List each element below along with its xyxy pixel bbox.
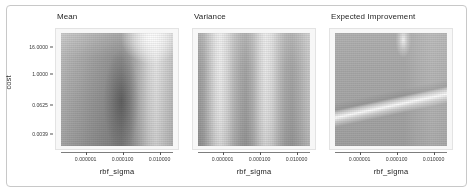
x-axis-tick-mark <box>360 152 361 155</box>
x-axis-tick-mark <box>260 152 261 155</box>
x-axis-tick-mark <box>160 152 161 155</box>
y-axis-tick-label: 0.0625 <box>32 102 48 108</box>
x-axis-tick-mark <box>297 152 298 155</box>
x-axis-tick-label: 0.000001 <box>349 156 371 162</box>
x-axis-variance: 0.0000010.0001000.010000 <box>198 152 310 166</box>
y-axis-tick-label: 1.0000 <box>32 71 48 77</box>
y-axis-tick-mark <box>50 46 53 47</box>
x-axis-tick-mark <box>86 152 87 155</box>
facet-heatmap-figure: cost 16.00001.00000.06250.0039 Mean 0.00… <box>0 0 473 196</box>
x-axis-tick-label: 0.000100 <box>249 156 271 162</box>
y-axis-tick-label: 16.0000 <box>29 44 48 50</box>
panel-title: Expected Improvement <box>331 12 415 21</box>
x-axis-title: rbf_sigma <box>55 167 179 176</box>
x-axis-tick-label: 0.010000 <box>149 156 171 162</box>
panel-title: Variance <box>194 12 226 21</box>
x-axis-tick-mark <box>123 152 124 155</box>
y-axis-tick-label: 0.0039 <box>32 131 48 137</box>
x-axis-title: rbf_sigma <box>192 167 316 176</box>
x-axis-expected-improvement: 0.0000010.0001000.010000 <box>335 152 447 166</box>
panel-expected-improvement: Expected Improvement 0.0000010.0001000.0… <box>329 12 455 184</box>
heatmap-raster-variance <box>198 33 310 146</box>
raster-grain <box>198 33 310 146</box>
x-axis-line <box>335 152 447 153</box>
heatmap-raster-expected-improvement <box>335 33 447 146</box>
x-axis-tick-mark <box>223 152 224 155</box>
x-axis-tick-label: 0.010000 <box>423 156 445 162</box>
panel-title: Mean <box>57 12 77 21</box>
x-axis-mean: 0.0000010.0001000.010000 <box>61 152 173 166</box>
x-axis-tick-label: 0.010000 <box>286 156 308 162</box>
raster-grain <box>335 33 447 146</box>
panel-variance: Variance 0.0000010.0001000.010000 rbf_si… <box>192 12 318 184</box>
x-axis-tick-label: 0.000001 <box>75 156 97 162</box>
x-axis-tick-mark <box>434 152 435 155</box>
y-axis-tick-mark <box>50 104 53 105</box>
x-axis-title: rbf_sigma <box>329 167 453 176</box>
x-axis-tick-label: 0.000100 <box>386 156 408 162</box>
x-axis-tick-label: 0.000001 <box>212 156 234 162</box>
y-axis-tick-mark <box>50 74 53 75</box>
x-axis-line <box>61 152 173 153</box>
panel-row: Mean 0.0000010.0001000.010000 rbf_sigma … <box>55 12 460 184</box>
raster-grain <box>61 33 173 146</box>
x-axis-line <box>198 152 310 153</box>
heatmap-raster-mean <box>61 33 173 146</box>
x-axis-tick-mark <box>397 152 398 155</box>
y-axis-title: cost <box>4 63 13 103</box>
panel-mean: Mean 0.0000010.0001000.010000 rbf_sigma <box>55 12 181 184</box>
x-axis-tick-label: 0.000100 <box>112 156 134 162</box>
y-axis-tick-mark <box>50 134 53 135</box>
y-axis-tick-labels: 16.00001.00000.06250.0039 <box>17 33 53 147</box>
